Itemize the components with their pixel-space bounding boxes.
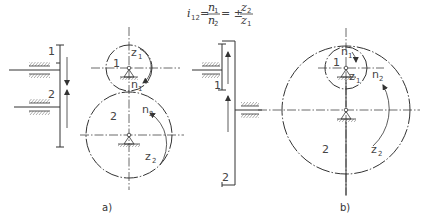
figure-b-front-view: 1 n 1 z 1 n 2 2 z 2 b) (258, 28, 420, 213)
label-gear-2: 2 (48, 88, 55, 101)
gear-2-teeth-sub: 2 (152, 157, 156, 165)
gear-1-number: 1 (333, 56, 340, 69)
transmission-ratio-formula: i 12 = n 1 n 2 = ± z 2 z 1 (187, 1, 253, 28)
gear-1-number: 1 (113, 57, 120, 70)
label-gear-1: 1 (48, 45, 55, 58)
gear-2-speed-sub: 2 (149, 110, 153, 118)
gear-2-rotation-arrow (373, 85, 389, 146)
gear-2-teeth-sub: 2 (378, 150, 382, 158)
gear-1-teeth-sub: 1 (138, 53, 142, 61)
gear-1-teeth-label: z (131, 46, 137, 59)
gear-1-teeth-label: z (349, 70, 355, 83)
bearing-hatch (29, 111, 50, 115)
internal-gear-profile (222, 41, 235, 185)
figure-a-front-view: 1 z 1 n 1 2 n 2 z 2 a) (80, 27, 184, 213)
gear-2-speed-label: n (372, 68, 379, 81)
formula-frac2-num: z (240, 1, 247, 14)
label-gear-1: 1 (214, 79, 221, 92)
gear-1-speed-sub: 1 (138, 85, 142, 93)
gear-1-rotation-arrow (352, 52, 356, 62)
gear-2-speed-sub: 2 (379, 75, 383, 83)
label-gear-2: 2 (222, 171, 229, 184)
gear-transmission-diagram: i 12 = n 1 n 2 = ± z 2 z 1 (0, 0, 422, 222)
gear-1-speed-label: n (341, 45, 348, 58)
bearing-hatch (241, 102, 259, 106)
formula-frac2-den: z (240, 14, 247, 27)
figure-a-side-view: 1 2 (9, 45, 67, 147)
gear-1-speed-sub: 1 (348, 52, 352, 60)
bearing-hatch (241, 114, 259, 118)
formula-eq2: = ± (221, 7, 243, 20)
gear-2-number: 2 (322, 143, 329, 156)
formula-frac2-den-sub: 1 (247, 20, 251, 28)
bearing-hatch (29, 74, 50, 78)
gear-1-teeth-sub: 1 (356, 77, 360, 85)
figure-b-caption: b) (340, 202, 350, 213)
gear-2-speed-label: n (142, 103, 149, 116)
figure-a-caption: a) (102, 202, 112, 213)
gear-2-teeth-label: z (145, 150, 151, 163)
formula-lhs-sub: 12 (191, 14, 200, 22)
gear-2-number: 2 (110, 110, 117, 123)
formula-frac1-den-sub: 2 (214, 20, 218, 28)
bearing-hatch (202, 74, 220, 78)
gear-2-teeth-label: z (371, 143, 377, 156)
gear-1-speed-label: n (131, 78, 138, 91)
bearing-hatch (202, 62, 220, 66)
figure-b-side-view: 1 2 (192, 41, 262, 187)
bearing-hatch (29, 62, 50, 66)
bearing-hatch (29, 99, 50, 103)
formula-lhs: i (187, 7, 191, 20)
